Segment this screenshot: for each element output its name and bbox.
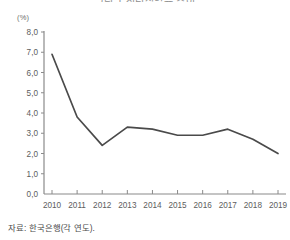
- plot-area: 8,07,06,05,04,03,02,01,00,0 201020112012…: [0, 0, 290, 215]
- y-axis-tick-label: 4,0: [27, 109, 39, 118]
- x-axis-tick-label: 2015: [168, 201, 187, 210]
- y-axis-tick-label: 0,0: [27, 190, 39, 199]
- source-note: 자료: 한국은행(각 연도).: [8, 221, 95, 233]
- x-axis-tick-label: 2013: [118, 201, 137, 210]
- y-axis-tick-label: 5,0: [27, 89, 39, 98]
- x-axis-tick-label: 2012: [93, 201, 112, 210]
- y-axis-tick-label: 6,0: [27, 69, 39, 78]
- y-axis-tick-label: 8,0: [27, 28, 39, 37]
- y-axis-tick-label: 3,0: [27, 129, 39, 138]
- x-axis-tick-label: 2019: [269, 201, 288, 210]
- x-axis-tick-label: 2011: [68, 201, 86, 210]
- data-series-line: [52, 54, 278, 153]
- line-chart-svg: 8,07,06,05,04,03,02,01,00,0 201020112012…: [0, 0, 290, 215]
- x-axis-tick-label: 2010: [43, 201, 62, 210]
- y-axis-tick-label: 1,0: [27, 170, 39, 179]
- chart-page: 그림 1 청년실업률 추이 (%) 8,07,06,05,04,03,02,01…: [0, 0, 290, 240]
- y-axis-tick-labels: 8,07,06,05,04,03,02,01,00,0: [27, 28, 39, 199]
- x-axis-tick-label: 2018: [244, 201, 263, 210]
- x-axis-tick-label: 2014: [143, 201, 162, 210]
- y-axis-tick-label: 7,0: [27, 48, 39, 57]
- x-axis-tick-label: 2017: [219, 201, 238, 210]
- x-axis-tick-label: 2016: [194, 201, 213, 210]
- y-axis-tick-label: 2,0: [27, 150, 39, 159]
- x-axis-tick-labels: 2010201120122013201420152016201720182019: [43, 201, 288, 210]
